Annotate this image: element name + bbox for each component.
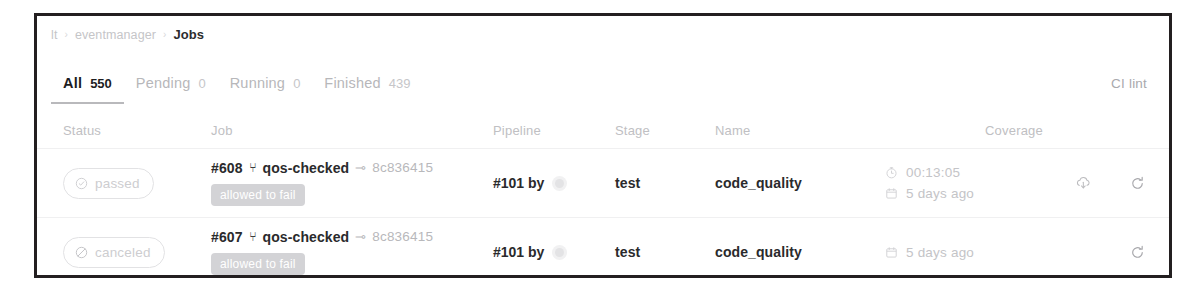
timer-icon <box>885 166 898 179</box>
tab-finished[interactable]: Finished 439 <box>312 72 422 104</box>
status-badge[interactable]: canceled <box>63 237 165 268</box>
job-status-cell: passed <box>63 168 211 199</box>
job-name-cell: code_quality <box>715 243 877 261</box>
job-name-cell: code_quality <box>715 174 877 192</box>
job-commit-sha[interactable]: 8c836415 <box>372 160 433 176</box>
pipeline-cell: #101 by <box>493 175 615 191</box>
column-header-status: Status <box>63 123 211 138</box>
check-circle-icon <box>75 177 88 190</box>
pipeline-label: #101 by <box>493 175 544 191</box>
avatar <box>552 245 567 260</box>
tab-finished-label: Finished <box>324 75 380 91</box>
tab-pending[interactable]: Pending 0 <box>124 72 218 104</box>
slash-circle-icon <box>75 246 88 259</box>
breadcrumb-separator-icon: › <box>64 29 67 40</box>
stage-cell: test <box>615 243 715 261</box>
job-finished-time: 5 days ago <box>885 186 1019 201</box>
branch-icon: ⑂ <box>249 229 257 245</box>
coverage-cell: 5 days ago <box>877 245 1019 260</box>
breadcrumb-item-jobs: Jobs <box>173 27 204 42</box>
job-id[interactable]: #607 <box>211 229 243 246</box>
job-title-line: #608 ⑂ qos-checked ⊸ 8c836415 <box>211 160 493 177</box>
stage-label: test <box>615 175 640 191</box>
job-id[interactable]: #608 <box>211 160 243 177</box>
job-status-tabs: All 550 Pending 0 Running 0 Finished 439 <box>51 72 422 104</box>
column-header-coverage: Coverage <box>877 123 1043 138</box>
job-duration-text: 00:13:05 <box>906 165 960 180</box>
job-cell: #607 ⑂ qos-checked ⊸ 8c836415 allowed to… <box>211 229 493 276</box>
job-branch-name[interactable]: qos-checked <box>263 229 350 246</box>
pipeline-link[interactable]: #101 by <box>493 175 615 191</box>
status-badge[interactable]: passed <box>63 168 154 199</box>
pipeline-cell: #101 by <box>493 244 615 260</box>
calendar-icon <box>885 246 898 259</box>
breadcrumb: lt › eventmanager › Jobs <box>51 27 204 42</box>
retry-icon[interactable] <box>1127 173 1147 193</box>
coverage-cell: 00:13:05 5 days ago <box>877 165 1019 201</box>
tab-running-count: 0 <box>293 76 300 91</box>
stage-cell: test <box>615 174 715 192</box>
tab-all[interactable]: All 550 <box>51 72 124 104</box>
screen: lt › eventmanager › Jobs All 550 Pending… <box>0 0 1202 297</box>
breadcrumb-separator-icon: › <box>163 29 166 40</box>
column-header-name: Name <box>715 123 877 138</box>
tab-running[interactable]: Running 0 <box>218 72 313 104</box>
row-actions <box>1019 173 1147 193</box>
job-status-cell: canceled <box>63 237 211 268</box>
tab-finished-count: 439 <box>389 76 411 91</box>
table-header-row: Status Job Pipeline Stage Name Coverage <box>37 112 1169 148</box>
job-meta: 5 days ago <box>877 245 1019 260</box>
job-finished-time: 5 days ago <box>885 245 1019 260</box>
stage-label: test <box>615 244 640 260</box>
allowed-to-fail-badge[interactable]: allowed to fail <box>211 253 305 275</box>
breadcrumb-item-lt[interactable]: lt <box>51 28 57 42</box>
job-name-label: code_quality <box>715 175 802 191</box>
column-header-pipeline: Pipeline <box>493 123 615 138</box>
tab-pending-label: Pending <box>136 75 191 91</box>
job-name-label: code_quality <box>715 244 802 260</box>
tab-all-count: 550 <box>90 76 112 91</box>
status-badge-label: passed <box>95 176 140 191</box>
tab-pending-count: 0 <box>198 76 205 91</box>
tab-all-label: All <box>63 75 82 91</box>
ci-lint-button[interactable]: CI lint <box>1111 76 1147 91</box>
job-title-line: #607 ⑂ qos-checked ⊸ 8c836415 <box>211 229 493 246</box>
job-finished-time-text: 5 days ago <box>906 186 974 201</box>
pipeline-link[interactable]: #101 by <box>493 244 615 260</box>
download-icon[interactable] <box>1073 173 1093 193</box>
avatar <box>552 176 567 191</box>
jobs-table: Status Job Pipeline Stage Name Coverage <box>37 112 1169 286</box>
job-meta: 00:13:05 5 days ago <box>877 165 1019 201</box>
table-row[interactable]: passed #608 ⑂ qos-checked ⊸ 8c836415 all… <box>37 148 1169 217</box>
job-cell: #608 ⑂ qos-checked ⊸ 8c836415 allowed to… <box>211 160 493 207</box>
table-row[interactable]: canceled #607 ⑂ qos-checked ⊸ 8c836415 a… <box>37 217 1169 286</box>
row-actions <box>1019 242 1147 262</box>
calendar-icon <box>885 187 898 200</box>
jobs-card: lt › eventmanager › Jobs All 550 Pending… <box>34 13 1172 278</box>
commit-icon: ⊸ <box>355 229 366 245</box>
job-commit-sha[interactable]: 8c836415 <box>372 229 433 245</box>
tab-running-label: Running <box>230 75 285 91</box>
tabs-row: All 550 Pending 0 Running 0 Finished 439… <box>37 64 1169 110</box>
commit-icon: ⊸ <box>355 160 366 176</box>
job-duration: 00:13:05 <box>885 165 1019 180</box>
pipeline-label: #101 by <box>493 244 544 260</box>
breadcrumb-item-eventmanager[interactable]: eventmanager <box>75 28 156 42</box>
branch-icon: ⑂ <box>249 160 257 176</box>
allowed-to-fail-badge[interactable]: allowed to fail <box>211 184 305 206</box>
column-header-stage: Stage <box>615 123 715 138</box>
column-header-job: Job <box>211 123 493 138</box>
job-finished-time-text: 5 days ago <box>906 245 974 260</box>
job-branch-name[interactable]: qos-checked <box>263 160 350 177</box>
status-badge-label: canceled <box>95 245 151 260</box>
retry-icon[interactable] <box>1127 242 1147 262</box>
